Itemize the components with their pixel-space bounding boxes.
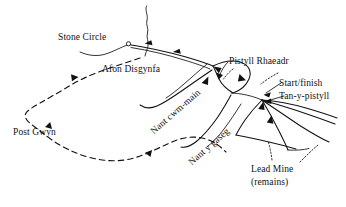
stone-circle-marker (126, 42, 130, 46)
river-afon-disgynfa (129, 45, 214, 67)
pointer-arrowhead-start-finish (264, 92, 271, 97)
trail-direction-marker-1 (71, 74, 79, 81)
label-lead-mine: Lead Mine (251, 164, 293, 175)
track-hub-branch-6 (231, 93, 262, 100)
river-nant-cwm-main (140, 70, 212, 108)
label-post-gwyn: Post Gwyn (13, 127, 56, 138)
track-hub-branch-1 (262, 100, 337, 118)
waterfall-arrowhead-gorge (238, 74, 246, 81)
sketch-map: Stone Circle Afon Disgynfa Nant cwm-main… (0, 0, 346, 207)
river-north-tributary (145, 6, 148, 56)
leader-line-start-finish (261, 73, 278, 84)
track-lower-spur (236, 135, 296, 149)
label-start-finish: Start/finish (279, 78, 322, 89)
leader-line-lead-mine-right (300, 145, 318, 162)
leader-line-pistyll-rhaeadr (224, 69, 234, 79)
label-stone-circle: Stone Circle (58, 32, 106, 43)
river-arrowhead-disgynfa-2 (173, 49, 181, 54)
river-arrowhead-cwm-main (202, 77, 209, 85)
map-drawing-canvas (0, 0, 346, 207)
leader-line-lead-mine-left (268, 141, 272, 160)
track-lower-spur-return (288, 149, 309, 151)
track-hub-branch-4 (262, 100, 288, 150)
track-arrowhead-lead-mine (267, 115, 274, 124)
label-tan-y-pistyll: Tan-y-pistyll (279, 91, 329, 102)
river-afon-disgynfa-west-tail (80, 45, 129, 56)
trail-direction-marker-3 (145, 150, 152, 157)
label-afon-disgynfa: Afon Disgynfa (102, 64, 160, 75)
label-pistyll-rhaeadr: Pistyll Rhaeadr (229, 56, 289, 67)
waterfall-plunge-line (213, 66, 233, 93)
label-lead-mine-remains: (remains) (251, 177, 288, 188)
